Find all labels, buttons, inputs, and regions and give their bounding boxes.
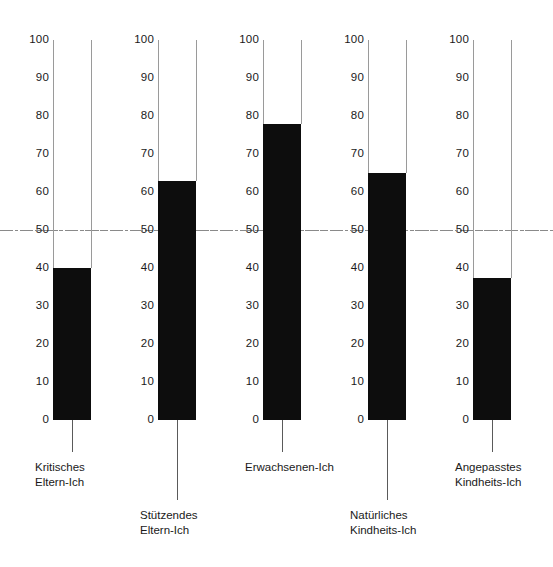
tick-label-30: 30 bbox=[456, 300, 469, 312]
bar-stuetzendes-eltern-ich[interactable] bbox=[158, 181, 196, 420]
tube-line-left bbox=[263, 40, 264, 124]
tick-label-10: 10 bbox=[36, 376, 49, 388]
caption-line: Eltern-Ich bbox=[140, 523, 198, 538]
tick-label-0: 0 bbox=[42, 414, 49, 426]
tick-label-30: 30 bbox=[141, 300, 154, 312]
tube-line-right bbox=[91, 40, 92, 268]
tick-label-90: 90 bbox=[141, 72, 154, 84]
tick-label-100: 100 bbox=[449, 34, 469, 46]
tick-label-80: 80 bbox=[36, 110, 49, 122]
tick-label-70: 70 bbox=[141, 148, 154, 160]
caption-line: Angepasstes bbox=[455, 460, 522, 475]
tick-label-70: 70 bbox=[456, 148, 469, 160]
caption-line: Kindheits-Ich bbox=[455, 475, 522, 490]
leader-line bbox=[72, 420, 73, 452]
ego-state-column-chart: 1009080706050403020100KritischesEltern-I… bbox=[0, 0, 553, 567]
tick-label-100: 100 bbox=[239, 34, 259, 46]
tick-label-0: 0 bbox=[462, 414, 469, 426]
tube-line-left bbox=[473, 40, 474, 278]
leader-line bbox=[282, 420, 283, 452]
tick-label-50: 50 bbox=[141, 224, 154, 236]
tick-label-40: 40 bbox=[456, 262, 469, 274]
tick-label-80: 80 bbox=[351, 110, 364, 122]
tick-label-90: 90 bbox=[456, 72, 469, 84]
tick-label-80: 80 bbox=[141, 110, 154, 122]
tick-label-10: 10 bbox=[351, 376, 364, 388]
bar-angepasstes-kindheits-ich[interactable] bbox=[473, 278, 511, 421]
tick-label-40: 40 bbox=[36, 262, 49, 274]
tick-label-30: 30 bbox=[351, 300, 364, 312]
tube-line-right bbox=[196, 40, 197, 181]
caption-line: Kindheits-Ich bbox=[350, 523, 416, 538]
tick-label-60: 60 bbox=[36, 186, 49, 198]
column-natuerliches-kindheits-ich[interactable]: 1009080706050403020100NatürlichesKindhei… bbox=[333, 0, 438, 567]
column-angepasstes-kindheits-ich[interactable]: 1009080706050403020100AngepasstesKindhei… bbox=[438, 0, 543, 567]
column-kritisches-eltern-ich[interactable]: 1009080706050403020100KritischesEltern-I… bbox=[18, 0, 123, 567]
tick-label-60: 60 bbox=[351, 186, 364, 198]
leader-line bbox=[177, 420, 178, 500]
bar-natuerliches-kindheits-ich[interactable] bbox=[368, 173, 406, 420]
tick-label-40: 40 bbox=[351, 262, 364, 274]
tick-label-20: 20 bbox=[36, 338, 49, 350]
tick-label-10: 10 bbox=[141, 376, 154, 388]
tick-label-70: 70 bbox=[351, 148, 364, 160]
tube-line-left bbox=[368, 40, 369, 173]
tick-label-90: 90 bbox=[351, 72, 364, 84]
scale-ticks: 1009080706050403020100 bbox=[123, 0, 154, 567]
tick-label-20: 20 bbox=[246, 338, 259, 350]
scale-ticks: 1009080706050403020100 bbox=[228, 0, 259, 567]
tick-label-70: 70 bbox=[246, 148, 259, 160]
caption-kritisches-eltern-ich: KritischesEltern-Ich bbox=[35, 460, 85, 490]
tick-label-30: 30 bbox=[246, 300, 259, 312]
scale-ticks: 1009080706050403020100 bbox=[333, 0, 364, 567]
tick-label-50: 50 bbox=[36, 224, 49, 236]
tick-label-20: 20 bbox=[141, 338, 154, 350]
tick-label-50: 50 bbox=[456, 224, 469, 236]
caption-angepasstes-kindheits-ich: AngepasstesKindheits-Ich bbox=[455, 460, 522, 490]
column-erwachsenen-ich[interactable]: 1009080706050403020100Erwachsenen-Ich bbox=[228, 0, 333, 567]
tick-label-100: 100 bbox=[29, 34, 49, 46]
tick-label-0: 0 bbox=[357, 414, 364, 426]
caption-natuerliches-kindheits-ich: NatürlichesKindheits-Ich bbox=[350, 508, 416, 538]
caption-stuetzendes-eltern-ich: StützendesEltern-Ich bbox=[140, 508, 198, 538]
bar-kritisches-eltern-ich[interactable] bbox=[53, 268, 91, 420]
tick-label-0: 0 bbox=[147, 414, 154, 426]
caption-line: Kritisches bbox=[35, 460, 85, 475]
tick-label-70: 70 bbox=[36, 148, 49, 160]
tube-line-left bbox=[158, 40, 159, 181]
tube-line-right bbox=[301, 40, 302, 124]
tick-label-100: 100 bbox=[134, 34, 154, 46]
column-stuetzendes-eltern-ich[interactable]: 1009080706050403020100StützendesEltern-I… bbox=[123, 0, 228, 567]
tick-label-90: 90 bbox=[36, 72, 49, 84]
tube-line-right bbox=[406, 40, 407, 173]
tick-label-60: 60 bbox=[141, 186, 154, 198]
tick-label-20: 20 bbox=[456, 338, 469, 350]
tick-label-10: 10 bbox=[246, 376, 259, 388]
tick-label-60: 60 bbox=[246, 186, 259, 198]
tick-label-80: 80 bbox=[246, 110, 259, 122]
tick-label-30: 30 bbox=[36, 300, 49, 312]
tick-label-0: 0 bbox=[252, 414, 259, 426]
tick-label-20: 20 bbox=[351, 338, 364, 350]
tick-label-90: 90 bbox=[246, 72, 259, 84]
tick-label-60: 60 bbox=[456, 186, 469, 198]
tick-label-80: 80 bbox=[456, 110, 469, 122]
bar-erwachsenen-ich[interactable] bbox=[263, 124, 301, 420]
caption-line: Erwachsenen-Ich bbox=[245, 460, 334, 475]
tick-label-40: 40 bbox=[246, 262, 259, 274]
tube-line-right bbox=[511, 40, 512, 278]
caption-line: Stützendes bbox=[140, 508, 198, 523]
leader-line bbox=[387, 420, 388, 500]
tick-label-50: 50 bbox=[351, 224, 364, 236]
tick-label-10: 10 bbox=[456, 376, 469, 388]
tick-label-50: 50 bbox=[246, 224, 259, 236]
caption-line: Eltern-Ich bbox=[35, 475, 85, 490]
tick-label-40: 40 bbox=[141, 262, 154, 274]
tick-label-100: 100 bbox=[344, 34, 364, 46]
caption-erwachsenen-ich: Erwachsenen-Ich bbox=[245, 460, 334, 475]
caption-line: Natürliches bbox=[350, 508, 416, 523]
leader-line bbox=[492, 420, 493, 452]
tube-line-left bbox=[53, 40, 54, 268]
